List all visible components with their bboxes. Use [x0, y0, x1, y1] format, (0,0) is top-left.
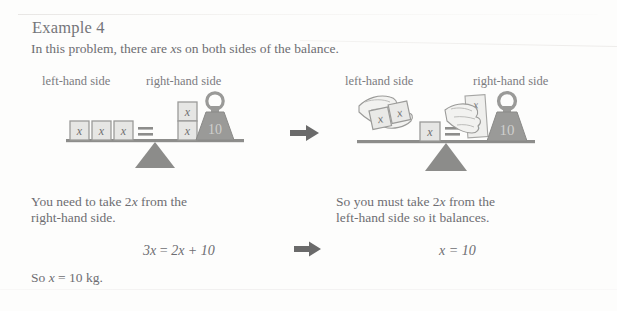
- svg-text:x: x: [184, 124, 191, 138]
- left-pan-boxes: x x x: [70, 121, 133, 140]
- svg-text:x: x: [426, 125, 433, 139]
- equals-sign-diagram1: [138, 127, 153, 136]
- explanation-right-line1-post: from the: [446, 194, 496, 209]
- svg-text:x: x: [76, 124, 83, 138]
- page-frame-line-bottom: [0, 289, 617, 290]
- explanation-left: You need to take 2x from the right-hand …: [31, 194, 187, 226]
- svg-text:x: x: [98, 124, 105, 138]
- arrow-between-diagrams: [288, 123, 322, 147]
- weight-10-diagram1: 10: [196, 93, 234, 140]
- svg-text:x: x: [120, 124, 127, 138]
- remaining-box-left: x: [420, 122, 440, 141]
- explanation-right-line1: So you must take 2x from the: [336, 194, 495, 210]
- equation-left-rhs: 2x + 10: [171, 243, 215, 258]
- right-pan-boxes: x x: [178, 102, 197, 140]
- weight-10-diagram2: 10: [487, 93, 527, 141]
- explanation-right: So you must take 2x from the left-hand s…: [336, 194, 495, 226]
- label-left-hand-side-diagram1: left-hand side: [42, 74, 110, 89]
- equation-left: 3x = 2x + 10: [143, 243, 215, 259]
- equation-right: x = 10: [439, 243, 476, 259]
- svg-text:x: x: [184, 105, 191, 119]
- explanation-left-line1-pre: You need to take 2: [31, 194, 132, 209]
- intro-sentence: In this problem, there are xs on both si…: [31, 41, 339, 57]
- explanation-left-line1: You need to take 2x from the: [31, 194, 187, 210]
- intro-text-post: s on both sides of the balance.: [176, 41, 338, 56]
- conclusion-pre: So: [31, 270, 49, 285]
- label-right-hand-side-diagram1: right-hand side: [146, 74, 221, 89]
- explanation-right-line2: left-hand side so it balances.: [336, 210, 495, 226]
- page-title: Example 4: [32, 18, 105, 38]
- explanation-right-line1-pre: So you must take 2: [336, 194, 440, 209]
- example-page: Example 4 In this problem, there are xs …: [0, 0, 617, 311]
- explanation-left-line2: right-hand side.: [31, 210, 187, 226]
- conclusion-post: = 10 kg.: [55, 270, 103, 285]
- arrow-between-equations: [293, 240, 323, 262]
- equation-left-operator: =: [160, 243, 168, 258]
- equation-left-lhs: 3x: [143, 243, 156, 258]
- page-frame-line-diagonal: [300, 40, 617, 47]
- page-frame-line-top: [18, 14, 598, 15]
- svg-text:10: 10: [208, 122, 222, 137]
- balance-diagram-before: x x x x x 10: [58, 88, 263, 172]
- intro-text-pre: In this problem, there are: [31, 41, 170, 56]
- balance-diagram-after: x x x x x: [355, 86, 570, 175]
- svg-text:10: 10: [500, 122, 515, 138]
- fulcrum-triangle: [135, 142, 175, 168]
- explanation-left-line1-post: from the: [138, 194, 188, 209]
- fulcrum-triangle: [425, 143, 467, 171]
- conclusion-text: So x = 10 kg.: [31, 270, 103, 286]
